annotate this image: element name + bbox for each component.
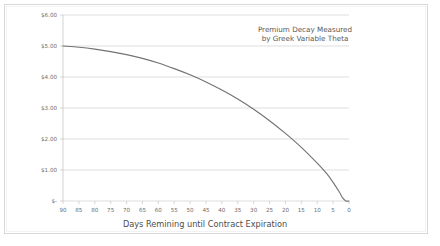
x-axis-tick-label: 40 (218, 207, 226, 213)
x-axis-tick-label: 85 (75, 207, 83, 213)
x-axis-tick-label: 30 (250, 207, 258, 213)
x-axis-tick-label: 70 (123, 207, 131, 213)
x-axis-tick-label: 20 (282, 207, 290, 213)
chart-frame: $6.00$5.00$4.00$3.00$2.00$1.00$- 9085807… (4, 4, 428, 234)
x-axis-tick-labels: 908580757065605550454035302520151050 (59, 207, 351, 213)
y-axis-tick-label: $6.00 (41, 12, 57, 18)
theta-decay-line-chart: $6.00$5.00$4.00$3.00$2.00$1.00$- 9085807… (5, 5, 427, 233)
premium-decay-series-line (63, 46, 349, 201)
x-axis-tick-label: 80 (91, 207, 99, 213)
x-axis-tick-label: 25 (266, 207, 274, 213)
y-axis-tick-marks (60, 15, 63, 201)
x-axis-tick-label: 75 (107, 207, 115, 213)
x-axis-tick-label: 45 (202, 207, 210, 213)
chart-annotation-line-1: Premium Decay Measured (258, 25, 352, 34)
x-axis-tick-label: 0 (347, 207, 351, 213)
y-axis-tick-labels: $6.00$5.00$4.00$3.00$2.00$1.00$- (41, 12, 57, 204)
x-axis-tick-label: 10 (314, 207, 322, 213)
x-axis-tick-label: 55 (171, 207, 179, 213)
y-axis-tick-label: $4.00 (41, 74, 57, 80)
y-axis-tick-label: $- (51, 198, 57, 204)
x-axis-title: Days Remining until Contract Expiration (123, 219, 287, 229)
x-axis-tick-label: 60 (155, 207, 163, 213)
x-axis-tick-label: 15 (298, 207, 306, 213)
y-axis-tick-label: $5.00 (41, 43, 57, 49)
x-axis-tick-label: 5 (331, 207, 335, 213)
y-axis-tick-label: $3.00 (41, 105, 57, 111)
x-axis-tick-label: 65 (139, 207, 147, 213)
chart-annotation-line-2: by Greek Variable Theta (262, 34, 349, 43)
y-axis-tick-label: $2.00 (41, 136, 57, 142)
y-axis-tick-label: $1.00 (41, 167, 57, 173)
x-axis-tick-label: 35 (234, 207, 242, 213)
x-axis-tick-label: 90 (59, 207, 67, 213)
x-axis-tick-marks (63, 201, 349, 204)
x-axis-tick-label: 50 (187, 207, 195, 213)
